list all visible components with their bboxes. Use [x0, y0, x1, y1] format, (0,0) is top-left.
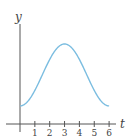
x-tick-label: 1	[32, 128, 38, 138]
series-line	[20, 44, 109, 106]
x-tick-label: 3	[62, 128, 68, 138]
x-tick-label: 5	[91, 128, 97, 138]
x-tick-label: 2	[47, 128, 53, 138]
x-axis-label: t	[120, 117, 125, 131]
y-axis-label: y	[14, 10, 22, 24]
chart: y t 123456	[0, 0, 127, 139]
x-tick-label: 4	[77, 128, 83, 138]
x-tick-label: 6	[106, 128, 112, 138]
